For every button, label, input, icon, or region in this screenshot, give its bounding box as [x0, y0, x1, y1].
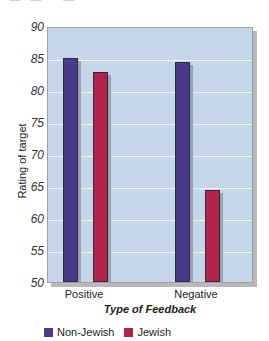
y-tick-label: 80 [18, 84, 44, 98]
x-axis-label: Type of Feedback [47, 303, 253, 315]
legend-label: Non-Jewish [57, 326, 114, 338]
legend-label: Jewish [137, 326, 171, 338]
x-tick-label: Positive [44, 288, 124, 300]
legend-item: Non-Jewish [44, 326, 114, 338]
y-tick-label: 55 [18, 244, 44, 258]
legend-swatch-icon [44, 328, 53, 337]
bar-positive-non-jewish [63, 58, 78, 282]
y-axis-label: Rating of target [16, 111, 28, 211]
y-tick-label: 50 [18, 276, 44, 290]
bar-negative-jewish [205, 190, 220, 282]
y-tick-label: 60 [18, 212, 44, 226]
legend: Non-JewishJewish [44, 326, 181, 338]
bar-positive-jewish [93, 72, 108, 282]
legend-swatch-icon [124, 328, 133, 337]
x-tick-label: Negative [156, 288, 236, 300]
legend-item: Jewish [124, 326, 171, 338]
plot-area [47, 27, 253, 283]
y-tick-label: 90 [18, 20, 44, 34]
cropped-header-text: ~ — · — ~ ~ — ~ [0, 0, 84, 5]
y-tick-label: 85 [18, 52, 44, 66]
bar-negative-non-jewish [175, 62, 190, 282]
